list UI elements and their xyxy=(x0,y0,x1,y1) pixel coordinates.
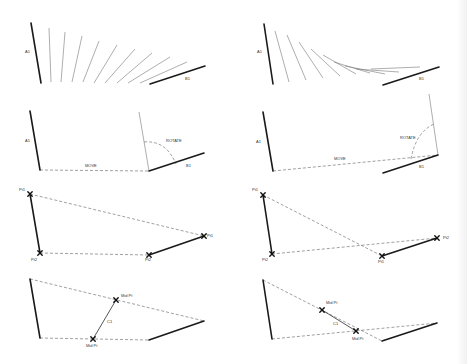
diagram-label: A1 xyxy=(256,139,262,144)
diagram-label: MOVE xyxy=(334,156,346,161)
panel-points-2: Pt1Pt2Pt1Pt2 xyxy=(252,187,450,264)
midpoint-link-c1 xyxy=(93,300,116,339)
panel-midpoints-2: Mid PtC1Mid Pt xyxy=(263,280,437,341)
intermediate-line xyxy=(94,45,117,83)
dashed-connector xyxy=(30,194,204,236)
panel-move-rotate-1: A1MOVEROTATEB1 xyxy=(25,111,204,171)
line-b1 xyxy=(382,323,437,341)
panel-sweep-curved: A1B1 xyxy=(257,24,439,85)
panel-points-1: Pt1Pt2Pt2Pt1 xyxy=(19,187,214,262)
diagram-label: B1 xyxy=(419,76,425,81)
intermediate-line xyxy=(72,36,82,82)
dashed-connector xyxy=(263,195,382,256)
diagram-label: Pt2 xyxy=(262,257,269,262)
diagram-label: ROTATE xyxy=(166,138,182,143)
intermediate-line xyxy=(287,35,306,80)
midpoint-link-c1 xyxy=(322,310,356,331)
diagram-label: C1 xyxy=(333,321,339,326)
point-marker-icon xyxy=(320,308,324,312)
intermediate-line xyxy=(429,94,438,155)
diagram-label: Mid Pt xyxy=(352,336,364,341)
diagram-label: Mid Pt xyxy=(121,293,133,298)
diagram-label: ROTATE xyxy=(400,135,416,140)
diagram-label: B1 xyxy=(419,164,425,169)
line-a1 xyxy=(31,23,41,83)
diagram-label: Pt1 xyxy=(207,233,214,238)
line-a1 xyxy=(30,279,40,338)
line-b1 xyxy=(383,67,439,85)
intermediate-line xyxy=(105,49,135,83)
line-a1 xyxy=(263,195,272,254)
intermediate-line xyxy=(49,28,51,82)
line-a1 xyxy=(264,24,273,84)
line-b1 xyxy=(382,238,437,256)
intermediate-line xyxy=(139,112,149,171)
line-b1 xyxy=(149,236,204,255)
intermediate-line xyxy=(371,67,420,69)
panel-sweep-linear: A1B1 xyxy=(25,23,205,84)
diagram-label: A1 xyxy=(25,49,31,54)
diagram-label: B1 xyxy=(186,163,192,168)
dashed-connector xyxy=(411,124,434,159)
diagram-label: A1 xyxy=(25,138,31,143)
panel-move-rotate-2: A1MOVEROTATEB1 xyxy=(256,94,438,173)
page-edge-shadow xyxy=(457,0,467,364)
intermediate-line xyxy=(345,66,385,74)
diagram-panels: A1B1A1B1A1MOVEROTATEB1A1MOVEROTATEB1Pt1P… xyxy=(19,23,450,348)
dashed-connector xyxy=(40,253,149,255)
line-b1 xyxy=(149,153,204,171)
diagram-label: Pt1 xyxy=(378,259,385,264)
diagram-label: A1 xyxy=(257,49,263,54)
line-a1 xyxy=(30,111,40,170)
diagram-label: C1 xyxy=(107,319,113,324)
diagram-label: MOVE xyxy=(85,163,97,168)
line-a1 xyxy=(30,194,40,253)
line-a1 xyxy=(263,112,273,171)
diagram-label: B1 xyxy=(185,76,191,81)
line-b1 xyxy=(383,155,438,173)
diagram-label: Pt1 xyxy=(252,187,259,192)
diagram-label: Pt2 xyxy=(31,257,38,262)
dashed-connector xyxy=(30,279,204,321)
panel-midpoints-1: Mid PtC1Mid Pt xyxy=(30,279,204,348)
line-b1 xyxy=(149,321,204,340)
dashed-connector xyxy=(144,142,176,164)
dashed-connector xyxy=(40,170,149,171)
diagram-label: Pt2 xyxy=(145,257,152,262)
diagram-canvas: A1B1A1B1A1MOVEROTATEB1A1MOVEROTATEB1Pt1P… xyxy=(0,0,467,364)
line-a1 xyxy=(263,280,272,339)
diagram-label: Pt1 xyxy=(19,187,26,192)
intermediate-line xyxy=(83,41,99,82)
diagram-label: Mid Pt xyxy=(326,300,338,305)
intermediate-line xyxy=(275,31,289,82)
diagram-label: Mid Pt xyxy=(86,343,98,348)
diagram-label: Pt2 xyxy=(443,235,450,240)
intermediate-line xyxy=(117,53,152,83)
intermediate-line xyxy=(61,32,65,82)
